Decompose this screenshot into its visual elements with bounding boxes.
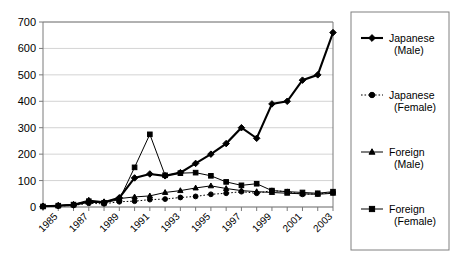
data-point	[193, 170, 198, 175]
data-point	[208, 192, 213, 197]
data-point	[163, 173, 168, 178]
data-point	[178, 171, 183, 176]
data-point	[239, 183, 244, 188]
data-point	[285, 189, 290, 194]
y-tick-label: 100	[18, 175, 36, 187]
data-point	[209, 174, 214, 179]
x-tick-label: 1999	[250, 210, 274, 234]
x-tick-label: 2003	[311, 210, 335, 234]
data-point	[224, 180, 229, 185]
data-point	[314, 72, 321, 79]
data-point	[239, 188, 244, 193]
series-path	[43, 33, 333, 207]
data-point	[224, 186, 229, 191]
x-tick-label: 1991	[128, 210, 152, 234]
data-point	[102, 200, 107, 205]
series-0	[40, 29, 337, 209]
series-3	[41, 132, 336, 209]
y-tick-label: 700	[18, 16, 36, 28]
x-tick-label: 1987	[67, 210, 91, 234]
legend-label-secondary: (Female)	[394, 101, 436, 113]
data-point	[148, 132, 153, 137]
data-series	[40, 29, 337, 209]
legend-swatch-marker	[369, 92, 374, 97]
data-point	[254, 181, 259, 186]
data-point	[132, 194, 137, 199]
data-point	[71, 202, 76, 207]
data-point	[41, 204, 46, 209]
data-point	[86, 199, 91, 204]
data-point	[193, 185, 198, 190]
x-tick-label: 1997	[219, 210, 243, 234]
data-point	[300, 190, 305, 195]
data-point	[224, 191, 229, 196]
data-point	[178, 195, 183, 200]
data-point	[162, 190, 167, 195]
data-point	[270, 188, 275, 193]
legend-label-secondary: (Male)	[394, 158, 424, 170]
x-tick-label: 1989	[97, 210, 121, 234]
y-axis-labels: 0100200300400500600700	[18, 16, 36, 213]
legend-label-primary: Foreign	[389, 146, 425, 158]
legend-label-secondary: (Female)	[394, 215, 436, 227]
data-point	[132, 199, 137, 204]
legend-label-secondary: (Male)	[394, 44, 424, 56]
y-tick-label: 400	[18, 95, 36, 107]
y-tick-label: 0	[30, 201, 36, 213]
gridlines	[43, 22, 333, 207]
legend-swatch-marker	[369, 206, 374, 211]
data-point	[330, 29, 337, 36]
legend-label-primary: Japanese	[389, 32, 435, 44]
x-tick-label: 1995	[189, 210, 213, 234]
data-point	[178, 188, 183, 193]
y-tick-label: 200	[18, 148, 36, 160]
x-axis-ticks	[43, 207, 333, 211]
x-tick-label: 1993	[158, 210, 182, 234]
chart-legend: Japanese(Male)Japanese(Female)Foreign(Ma…	[351, 12, 449, 250]
legend-label-primary: Foreign	[389, 203, 425, 215]
data-point	[331, 189, 336, 194]
axis-lines	[43, 22, 333, 207]
data-point	[147, 193, 152, 198]
y-tick-label: 300	[18, 122, 36, 134]
data-point	[117, 197, 122, 202]
data-point	[315, 191, 320, 196]
data-point	[56, 203, 61, 208]
series-2	[40, 183, 335, 208]
y-tick-label: 500	[18, 69, 36, 81]
x-tick-label: 1985	[36, 210, 60, 234]
data-point	[163, 197, 168, 202]
x-tick-label: 2001	[280, 210, 304, 234]
data-point	[147, 171, 154, 178]
data-point	[132, 165, 137, 170]
y-axis-ticks	[39, 22, 43, 207]
line-chart: 0100200300400500600700 19851987198919911…	[0, 0, 455, 261]
data-point	[193, 194, 198, 199]
legend-label-primary: Japanese	[389, 89, 435, 101]
series-1	[41, 188, 336, 209]
y-tick-label: 600	[18, 42, 36, 54]
x-axis-labels: 1985198719891991199319951997199920012003	[36, 210, 335, 234]
data-point	[208, 183, 213, 188]
data-point	[254, 189, 259, 194]
